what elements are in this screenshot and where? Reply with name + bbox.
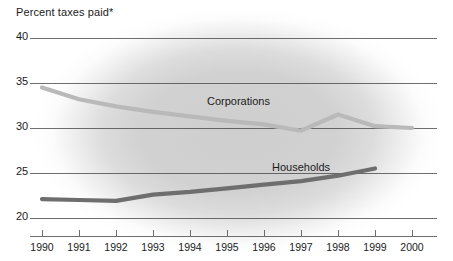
series-line-corporations [42, 88, 412, 131]
data-series [42, 88, 412, 201]
x-axis [30, 230, 437, 236]
plot-area [0, 0, 453, 261]
percent-taxes-paid-line-chart: Percent taxes paid* 40 35 30 25 20 1990 … [0, 0, 453, 261]
